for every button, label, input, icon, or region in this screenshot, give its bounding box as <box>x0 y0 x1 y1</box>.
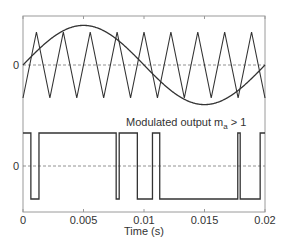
x-tick-label: 0.005 <box>70 214 98 226</box>
annotation-tail: > 1 <box>228 116 247 128</box>
chart-canvas: 0 0 Modulated output ma > 1 0 0.005 0.01… <box>0 0 287 250</box>
x-tick-label: 0.015 <box>191 214 219 226</box>
x-tick-label: 0.02 <box>254 214 275 226</box>
bottom-y-tick-zero: 0 <box>13 160 19 172</box>
pwm-chart-figure: 0 0 Modulated output ma > 1 0 0.005 0.01… <box>0 0 287 250</box>
x-tick-label: 0 <box>20 214 26 226</box>
x-axis-title: Time (s) <box>124 225 164 237</box>
annotation-main: Modulated output m <box>126 116 223 128</box>
top-y-tick-zero: 0 <box>13 59 19 71</box>
